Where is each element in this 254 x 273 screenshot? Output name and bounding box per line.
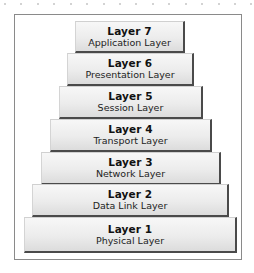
guide-dot [201, 3, 203, 5]
guide-dot [86, 3, 88, 5]
guide-dot [234, 3, 236, 5]
layer-5-block: Layer 5 Session Layer [59, 86, 203, 119]
layer-number-label: Layer 7 [107, 25, 151, 37]
layer-number-label: Layer 2 [108, 188, 152, 200]
layer-number-label: Layer 6 [108, 57, 152, 69]
layer-number-label: Layer 4 [108, 123, 152, 135]
layer-number-label: Layer 3 [108, 156, 152, 168]
layer-name-label: Physical Layer [96, 235, 164, 247]
layer-number-label: Layer 5 [108, 90, 152, 102]
guide-dot [103, 3, 105, 5]
layer-3-block: Layer 3 Network Layer [41, 152, 221, 185]
layer-2-block: Layer 2 Data Link Layer [32, 184, 229, 217]
guide-dot [53, 3, 55, 5]
layer-name-label: Presentation Layer [85, 69, 174, 81]
guide-dot [119, 3, 121, 5]
guide-dot [250, 3, 252, 5]
guide-dot [20, 3, 22, 5]
layer-7-block: Layer 7 Application Layer [75, 21, 185, 53]
guide-dot [185, 3, 187, 5]
guide-dot [152, 3, 154, 5]
layer-name-label: Network Layer [96, 168, 165, 180]
guide-dot [4, 3, 6, 5]
layer-name-label: Data Link Layer [93, 200, 168, 212]
layer-number-label: Layer 1 [108, 223, 152, 235]
layer-1-block: Layer 1 Physical Layer [24, 217, 237, 253]
guide-dot [168, 3, 170, 5]
layer-6-block: Layer 6 Presentation Layer [67, 53, 194, 86]
layer-name-label: Application Layer [88, 37, 171, 49]
dotted-guide-line [0, 3, 254, 6]
guide-dot [37, 3, 39, 5]
layer-name-label: Transport Layer [93, 135, 167, 147]
guide-dot [218, 3, 220, 5]
guide-dot [70, 3, 72, 5]
guide-dot [135, 3, 137, 5]
layer-name-label: Session Layer [98, 102, 164, 114]
layer-4-block: Layer 4 Transport Layer [50, 119, 212, 152]
